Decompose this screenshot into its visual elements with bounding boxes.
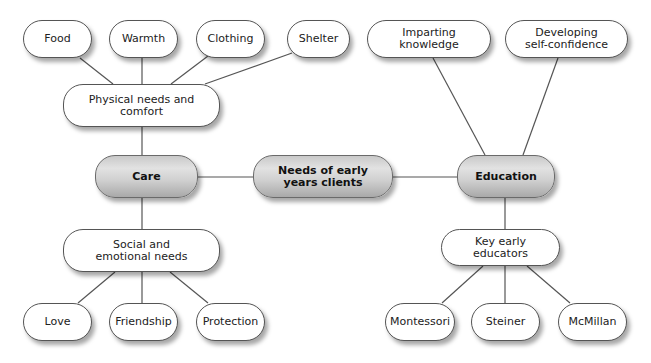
connector-imparting bbox=[433, 58, 485, 155]
node-physical-needs: Physical needs and comfort bbox=[63, 84, 220, 127]
node-love: Love bbox=[23, 303, 92, 341]
connector-food bbox=[80, 58, 113, 84]
node-imparting-knowledge: Imparting knowledge bbox=[367, 20, 491, 58]
node-mcmillan: McMillan bbox=[558, 303, 627, 341]
node-education: Education bbox=[457, 155, 555, 198]
connector-self-confidence bbox=[523, 58, 558, 155]
connector-mcmillan bbox=[527, 266, 570, 303]
connector-montessori bbox=[442, 266, 483, 303]
connector-clothing bbox=[171, 56, 208, 84]
node-developing-self-confidence: Developing self-confidence bbox=[505, 20, 628, 58]
node-social-emotional-needs: Social and emotional needs bbox=[63, 229, 220, 272]
node-food: Food bbox=[23, 20, 92, 58]
node-warmth: Warmth bbox=[109, 20, 178, 58]
node-protection: Protection bbox=[196, 303, 265, 341]
node-clothing: Clothing bbox=[196, 20, 265, 58]
node-montessori: Montessori bbox=[385, 303, 455, 341]
connector-love bbox=[78, 272, 115, 303]
connector-protection bbox=[170, 272, 208, 303]
node-key-early-educators: Key early educators bbox=[441, 229, 560, 266]
node-friendship: Friendship bbox=[109, 303, 178, 341]
node-center-needs: Needs of early years clients bbox=[253, 155, 393, 198]
mind-map-diagram: Food Warmth Clothing Shelter Imparting k… bbox=[0, 0, 651, 363]
node-care: Care bbox=[95, 155, 198, 198]
node-steiner: Steiner bbox=[471, 303, 540, 341]
node-shelter: Shelter bbox=[287, 20, 350, 58]
